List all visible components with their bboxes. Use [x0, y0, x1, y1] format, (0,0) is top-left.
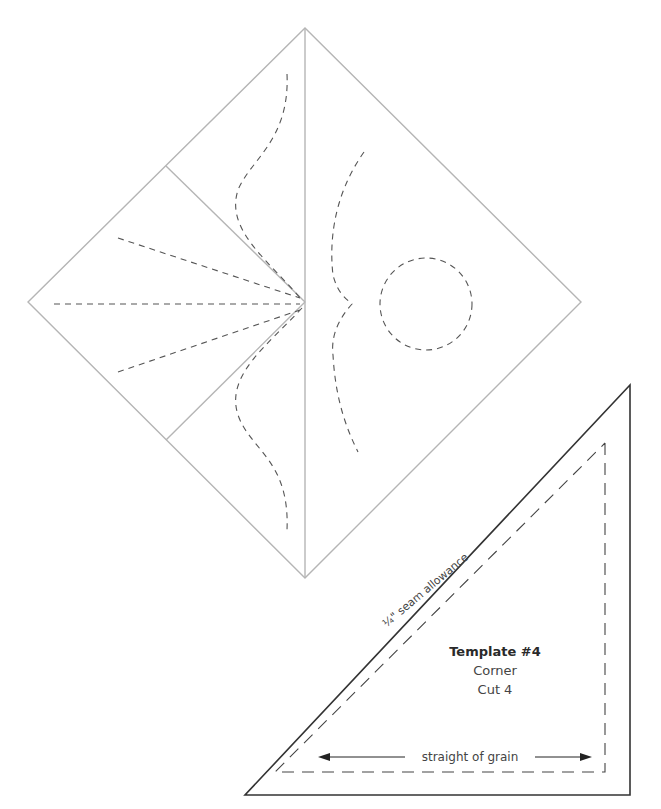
pattern-canvas: [0, 0, 661, 809]
quilt-block-diamond: [28, 28, 581, 578]
arrowhead-left-icon: [318, 753, 330, 761]
template-cut-count: Cut 4: [440, 680, 550, 699]
ray-top: [118, 238, 300, 298]
left-patch-seam-top: [166, 166, 305, 302]
grain-label: straight of grain: [405, 750, 535, 764]
circle-motif: [380, 258, 472, 350]
template-triangle: [245, 385, 630, 795]
template-outline: [245, 385, 630, 795]
template-label: Template #4 Corner Cut 4: [440, 642, 550, 699]
ray-bottom: [118, 310, 300, 372]
template-name: Corner: [440, 661, 550, 680]
arrowhead-right-icon: [580, 753, 592, 761]
quilting-lines: [54, 74, 472, 530]
wave-lower-left: [236, 308, 302, 530]
wave-right: [332, 152, 364, 452]
seam-allowance-line: [275, 443, 605, 772]
template-title: Template #4: [440, 642, 550, 661]
left-patch-seam-bottom: [166, 302, 305, 440]
